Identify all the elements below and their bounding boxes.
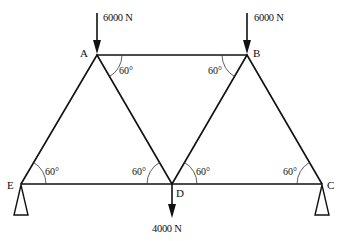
angle-label-e: 60° bbox=[45, 166, 59, 177]
member-ad bbox=[97, 55, 172, 184]
load-b: 6000 N bbox=[243, 12, 284, 54]
node-label-e: E bbox=[7, 179, 14, 191]
node-label-c: C bbox=[327, 179, 334, 191]
truss-diagram: 60° 60° 60° 60° 60° 60° 6000 N 6000 N 40… bbox=[0, 0, 346, 241]
force-label-d: 4000 N bbox=[152, 223, 182, 234]
angle-label-c: 60° bbox=[283, 166, 297, 177]
truss-members bbox=[21, 55, 322, 184]
arrow-down-icon bbox=[243, 40, 251, 54]
arrow-down-icon bbox=[93, 40, 101, 54]
angle-arc-d-left bbox=[147, 162, 160, 184]
angle-arc-c bbox=[297, 162, 310, 184]
arrow-down-icon bbox=[168, 204, 176, 218]
angle-label-b: 60° bbox=[208, 65, 222, 76]
angle-arc-b bbox=[222, 55, 235, 77]
force-label-b: 6000 N bbox=[254, 12, 284, 23]
angle-labels: 60° 60° 60° 60° 60° 60° bbox=[45, 65, 297, 177]
angle-arcs bbox=[34, 55, 310, 184]
node-label-b: B bbox=[253, 47, 260, 59]
load-a: 6000 N bbox=[93, 12, 133, 54]
node-label-d: D bbox=[176, 187, 184, 199]
force-label-a: 6000 N bbox=[103, 12, 133, 23]
angle-label-d-right: 60° bbox=[196, 166, 210, 177]
member-ea bbox=[21, 55, 97, 184]
pin-support-e bbox=[14, 185, 28, 215]
angle-label-d-left: 60° bbox=[132, 166, 146, 177]
member-bc bbox=[247, 55, 322, 184]
node-label-a: A bbox=[80, 47, 88, 59]
angle-label-a: 60° bbox=[119, 65, 133, 76]
